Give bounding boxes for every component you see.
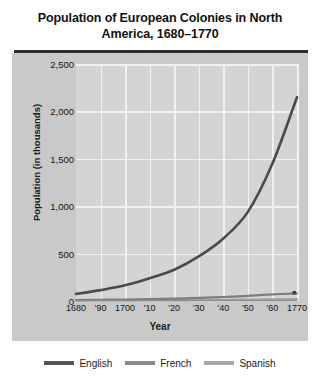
legend-item-spanish[interactable]: Spanish: [204, 358, 275, 369]
plot-area: [76, 64, 297, 301]
x-tick-label: '50: [242, 303, 254, 313]
x-axis-line: [76, 300, 297, 301]
x-axis-ticks: 1680'901700'10'20'30'40'50'601770: [76, 303, 297, 317]
y-tick-label: 1,000: [18, 201, 74, 212]
legend-swatch-icon: [44, 361, 74, 365]
legend-swatch-icon: [204, 361, 234, 365]
y-tick-label: 2,000: [18, 106, 74, 117]
x-axis-title: Year: [12, 321, 308, 332]
x-tick-label: 1770: [287, 303, 307, 313]
x-tick-label: '10: [144, 303, 156, 313]
chart-figure: Population of European Colonies in North…: [0, 0, 322, 381]
page-title: Population of European Colonies in North…: [12, 10, 308, 42]
chart-title-block: Population of European Colonies in North…: [12, 4, 308, 48]
chart-panel: Population (in thousands) Year 05001,000…: [12, 53, 308, 341]
y-tick-label: 2,500: [18, 59, 74, 70]
x-tick-label: 1680: [66, 303, 86, 313]
y-tick-label: 1,500: [18, 153, 74, 164]
legend-item-french[interactable]: French: [125, 358, 191, 369]
legend-label: French: [160, 358, 191, 369]
x-tick-label: '90: [95, 303, 107, 313]
x-tick-label: '20: [168, 303, 180, 313]
series-lines: [76, 64, 297, 301]
x-tick-label: 1700: [115, 303, 135, 313]
y-axis-ticks: 05001,0001,5002,0002,500: [12, 64, 74, 301]
legend-label: Spanish: [239, 358, 275, 369]
chart-legend: EnglishFrenchSpanish: [12, 352, 308, 374]
x-tick-label: '60: [267, 303, 279, 313]
legend-label: English: [79, 358, 112, 369]
legend-swatch-icon: [125, 361, 155, 365]
legend-item-english[interactable]: English: [44, 358, 112, 369]
x-tick-label: '30: [193, 303, 205, 313]
endpoint-marker: [293, 291, 296, 294]
y-tick-label: 500: [18, 248, 74, 259]
x-tick-label: '40: [217, 303, 229, 313]
series-line-english: [76, 97, 297, 294]
